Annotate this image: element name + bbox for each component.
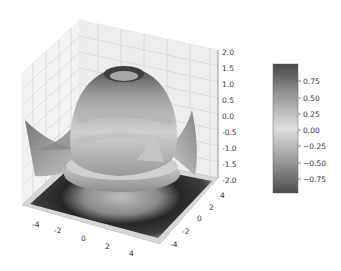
x-tick: 4 [129,249,134,258]
x-tick: -4 [32,220,40,229]
z-tick: 2.0 [222,48,234,57]
colorbar-tick: 0.50 [303,94,320,103]
y-tick: 0 [197,214,202,223]
colorbar-gradient [273,64,298,193]
colorbar-tick: −0.25 [303,142,326,151]
x-tick: 0 [81,234,86,243]
colorbar-tick: 0.00 [303,126,320,135]
x-tick: -2 [54,226,62,235]
colorbar-tick: −0.75 [303,175,326,184]
colorbar: 0.75 0.50 0.25 0.00 −0.25 −0.50 −0.75 [273,64,326,193]
z-tick: -1.0 [222,144,237,153]
z-tick: 0.0 [222,112,234,121]
z-tick: -0.5 [222,128,237,137]
surface-plot-figure: 2.0 1.5 1.0 0.5 0.0 -0.5 -1.0 -1.5 -2.0 … [0,0,341,271]
z-tick: 1.5 [222,64,234,73]
x-tick: 2 [105,242,110,251]
y-tick: 4 [220,191,225,200]
y-tick: -4 [170,240,178,249]
z-axis: 2.0 1.5 1.0 0.5 0.0 -0.5 -1.0 -1.5 -2.0 [218,48,237,185]
y-tick: 2 [209,203,214,212]
y-tick: -2 [182,227,190,236]
z-tick: -1.5 [222,160,237,169]
z-tick: 1.0 [222,80,234,89]
colorbar-tick: 0.75 [303,77,320,86]
z-tick: 0.5 [222,96,234,105]
colorbar-tick: −0.50 [303,159,326,168]
z-tick: -2.0 [222,176,237,185]
colorbar-tick: 0.25 [303,110,320,119]
